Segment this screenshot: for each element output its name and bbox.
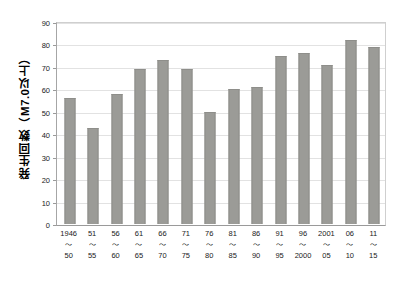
bar-chart-figure: 発生回数（M7.0以上） 0102030405060708090 1946～50…: [0, 0, 405, 281]
bar-slot: [81, 24, 104, 224]
bar-slot: [292, 24, 315, 224]
y-tick-label: 90: [42, 19, 50, 28]
bar: [369, 47, 380, 224]
x-tick-label-tilde: ～: [127, 240, 150, 251]
x-tick-label: 2001～05: [315, 228, 338, 262]
y-axis-title: 発生回数（M7.0以上）: [14, 0, 38, 230]
x-tick-label: 96～2000: [291, 228, 314, 262]
x-tick-label-end: 10: [338, 250, 361, 262]
x-tick-label: 51～55: [80, 228, 103, 262]
x-tick-label-end: 70: [151, 250, 174, 262]
x-tick-label-end: 50: [57, 250, 80, 262]
bar: [64, 98, 75, 224]
bar-slot: [199, 24, 222, 224]
y-tick-mark: [53, 90, 56, 91]
x-tick-label-end: 2000: [291, 250, 314, 262]
y-tick-mark: [53, 225, 56, 226]
x-tick-label: 81～85: [221, 228, 244, 262]
x-tick-label: 71～75: [174, 228, 197, 262]
x-tick-label: 76～80: [198, 228, 221, 262]
y-tick-label: 50: [42, 108, 50, 117]
x-tick-label: 91～95: [268, 228, 291, 262]
bar-slot: [339, 24, 362, 224]
y-axis-title-label: 発生回数（M7.0以上）: [20, 51, 32, 179]
x-tick-label-start: 66: [151, 228, 174, 240]
gridline: [57, 225, 385, 226]
x-tick-label: 06～10: [338, 228, 361, 262]
x-tick-label-tilde: ～: [268, 240, 291, 251]
x-tick-label: 56～60: [104, 228, 127, 262]
x-tick-label-tilde: ～: [198, 240, 221, 251]
bar: [345, 40, 356, 224]
x-tick-label-end: 75: [174, 250, 197, 262]
x-tick-label-start: 11: [362, 228, 385, 240]
bar: [252, 87, 263, 224]
x-tick-label-end: 55: [80, 250, 103, 262]
bar: [134, 69, 145, 224]
x-tick-label-tilde: ～: [362, 240, 385, 251]
y-tick-mark: [53, 180, 56, 181]
bar-slot: [245, 24, 268, 224]
x-tick-label: 86～90: [244, 228, 267, 262]
x-tick-label-end: 80: [198, 250, 221, 262]
x-tick-label: 1946～50: [57, 228, 80, 262]
x-tick-label-start: 1946: [57, 228, 80, 240]
x-tick-label-tilde: ～: [80, 240, 103, 251]
y-tick-label: 10: [42, 198, 50, 207]
y-tick-mark: [53, 45, 56, 46]
y-tick-mark: [53, 23, 56, 24]
x-tick-label: 11～15: [362, 228, 385, 262]
x-tick-label-end: 65: [127, 250, 150, 262]
x-tick-label-tilde: ～: [221, 240, 244, 251]
bar: [275, 56, 286, 224]
x-tick-label-start: 56: [104, 228, 127, 240]
x-tick-label: 66～70: [151, 228, 174, 262]
bar: [181, 69, 192, 224]
x-tick-label-tilde: ～: [151, 240, 174, 251]
y-tick-label: 30: [42, 153, 50, 162]
x-tick-label-tilde: ～: [104, 240, 127, 251]
x-tick-label-start: 06: [338, 228, 361, 240]
y-tick-mark: [53, 203, 56, 204]
plot-wrap: 0102030405060708090: [56, 22, 386, 226]
y-tick-label: 70: [42, 63, 50, 72]
x-tick-label-tilde: ～: [57, 240, 80, 251]
bars-layer: [58, 24, 384, 224]
x-axis-labels: 1946～5051～5556～6061～6566～7071～7576～8081～…: [56, 228, 386, 276]
x-tick-label-tilde: ～: [291, 240, 314, 251]
bar-slot: [175, 24, 198, 224]
y-tick-mark: [53, 68, 56, 69]
x-tick-label-start: 86: [244, 228, 267, 240]
bar: [205, 112, 216, 224]
bar: [158, 60, 169, 224]
bar-slot: [105, 24, 128, 224]
x-tick-label-start: 71: [174, 228, 197, 240]
x-tick-label-start: 61: [127, 228, 150, 240]
bar-slot: [269, 24, 292, 224]
y-tick-label: 60: [42, 86, 50, 95]
x-tick-label-end: 60: [104, 250, 127, 262]
x-tick-label-start: 51: [80, 228, 103, 240]
bar: [298, 53, 309, 224]
y-tick-mark: [53, 113, 56, 114]
y-tick-label: 20: [42, 176, 50, 185]
x-tick-label-start: 96: [291, 228, 314, 240]
bar-slot: [222, 24, 245, 224]
x-tick-label-start: 91: [268, 228, 291, 240]
bar-slot: [58, 24, 81, 224]
x-tick-label-tilde: ～: [338, 240, 361, 251]
y-tick-mark: [53, 158, 56, 159]
bar: [322, 65, 333, 224]
x-tick-label-tilde: ～: [315, 240, 338, 251]
bar: [88, 128, 99, 225]
plot-area: [56, 22, 386, 226]
y-tick-mark: [53, 135, 56, 136]
y-tick-label: 0: [46, 221, 50, 230]
bar: [111, 94, 122, 224]
x-tick-label-end: 05: [315, 250, 338, 262]
bar-slot: [152, 24, 175, 224]
x-tick-label-start: 2001: [315, 228, 338, 240]
x-tick-label-tilde: ～: [244, 240, 267, 251]
x-tick-label-start: 81: [221, 228, 244, 240]
x-tick-label: 61～65: [127, 228, 150, 262]
